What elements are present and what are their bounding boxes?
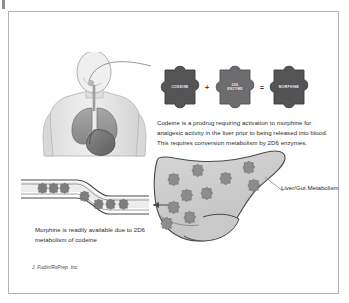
vessel-mini-puzzle [119,199,129,209]
puzzle-piece-2d6-enzyme[interactable]: 2D6 ENZYME [213,64,257,110]
blood-vessel [17,172,169,224]
vessel-mini-puzzle [80,191,90,201]
liver-mini-puzzle [220,172,231,184]
liver-mini-puzzle [201,187,212,199]
liver-mini-puzzle [181,189,192,201]
figure-frame: CODEINE + 2D6 ENZYME = [8,11,339,294]
liver-to-vessel-arrow [153,202,169,208]
vessel-mini-puzzle [49,183,59,193]
puzzle-piece-morphine[interactable]: MORPHINE [267,64,311,110]
vessel-mini-puzzle [94,199,104,209]
attribution-text: J. Fudin/RxPrep, Inc. [32,264,79,270]
liver-mini-puzzle [243,161,254,173]
puzzle-piece-codeine-shape [158,64,202,110]
liver-mini-puzzle [248,179,259,191]
liver-mini-puzzle [168,173,179,185]
liver-mini-puzzle [192,164,203,176]
operator-equals: = [260,84,264,91]
stomach [86,130,115,156]
liver-gut-metabolism-label: Liver/Gut Metabolism [281,184,339,191]
human-torso-with-lungs-and-stomach [39,52,151,172]
morphine-availability-text: Morphine is readily available due to 2D6… [35,225,160,245]
puzzle-piece-morphine-shape [267,64,311,110]
puzzle-piece-codeine[interactable]: CODEINE [158,64,202,110]
corner-tick-mark [2,0,5,9]
puzzle-equation: CODEINE + 2D6 ENZYME = [158,64,310,112]
vessel-mini-puzzle [60,183,70,193]
operator-plus: + [205,84,209,91]
puzzle-piece-2d6-enzyme-shape [213,64,257,110]
vessel-mini-puzzle [38,183,48,193]
liver-mini-puzzle [168,201,179,213]
mouth [88,80,93,85]
vessel-mini-puzzle [106,199,116,209]
liver-mini-puzzle [184,211,195,223]
figure-canvas: CODEINE + 2D6 ENZYME = [0,0,349,303]
